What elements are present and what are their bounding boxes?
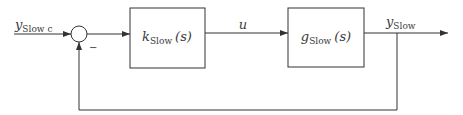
summing-junction (71, 26, 87, 42)
input-signal-label: ySlow c (14, 17, 52, 34)
feedback-sign: − (89, 42, 97, 53)
output-signal-label: ySlow (385, 14, 416, 31)
control-signal-label: u (239, 17, 247, 32)
block-diagram: ySlow c − kSlow(s) u gSlow(s) ySlow (0, 0, 463, 115)
